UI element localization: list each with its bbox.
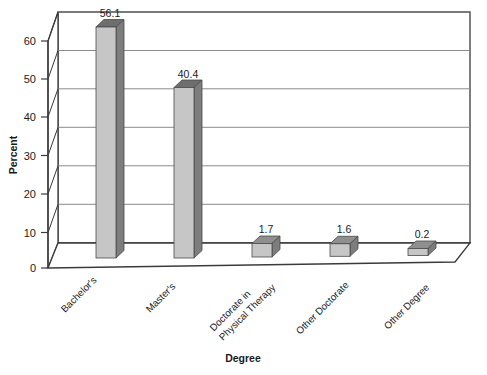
bar-front-4	[408, 249, 428, 256]
bar-value-label-2: 1.7	[259, 223, 274, 235]
bar-value-label-3: 1.6	[337, 223, 352, 235]
y-tick-label-60: 60	[24, 35, 36, 47]
x-tick-label-3: Other Doctorate	[294, 279, 351, 336]
bar-front-0	[96, 27, 116, 258]
bar-value-label-4: 0.2	[415, 228, 430, 240]
bar-chart: 60 50 40 30 20 10 0 Percent 56.1 40.4	[0, 0, 487, 375]
y-tick-label-20: 20	[24, 188, 36, 200]
bar-front-1	[174, 88, 194, 259]
y-tick-label-40: 40	[24, 111, 36, 123]
y-tick-label-10: 10	[24, 227, 36, 239]
chart-canvas: 60 50 40 30 20 10 0 Percent 56.1 40.4	[0, 0, 487, 375]
y-axis	[41, 41, 48, 268]
bar-group-0: 56.1	[96, 7, 124, 258]
bar-front-3	[330, 244, 350, 256]
x-axis-title: Degree	[225, 352, 261, 364]
bar-side-1	[194, 80, 202, 258]
y-tick-label-50: 50	[24, 73, 36, 85]
x-tick-label-0: Bachelor's	[59, 274, 99, 314]
x-tick-label-4: Other Degree	[382, 281, 432, 331]
x-tick-label-2: Doctorate in Physical Therapy	[207, 272, 277, 342]
bar-side-0	[116, 20, 124, 259]
bar-group-1: 40.4	[174, 68, 202, 259]
x-tick-labels: Bachelor's Master's Doctorate in Physica…	[59, 272, 432, 342]
y-tick-label-0: 0	[30, 262, 36, 274]
bar-value-label-1: 40.4	[178, 68, 199, 80]
y-tick-labels: 60 50 40 30 20 10 0	[24, 35, 36, 274]
bar-value-label-0: 56.1	[100, 7, 121, 19]
x-tick-label-1: Master's	[144, 281, 178, 315]
y-axis-title: Percent	[7, 135, 19, 174]
y-tick-label-30: 30	[24, 150, 36, 162]
bar-front-2	[252, 244, 272, 258]
